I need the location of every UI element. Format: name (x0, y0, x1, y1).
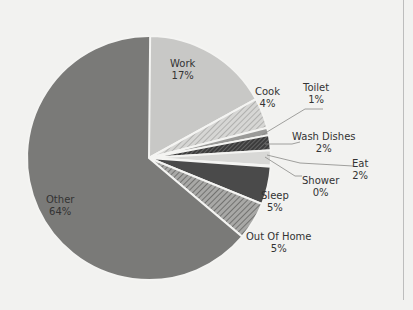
leader-eat (267, 155, 353, 166)
label-sleep-pct: 5% (261, 202, 289, 214)
label-work-name: Work (170, 58, 195, 70)
label-work-pct: 17% (170, 70, 195, 82)
label-wash-dishes: Wash Dishes 2% (292, 131, 356, 155)
label-sleep-name: Sleep (261, 190, 289, 202)
label-wash-dishes-name: Wash Dishes (292, 131, 356, 143)
label-eat: Eat 2% (352, 158, 368, 182)
label-out-of-home-pct: 5% (246, 243, 311, 255)
label-work: Work 17% (170, 58, 195, 82)
label-toilet: Toilet 1% (303, 82, 329, 106)
label-out-of-home: Out Of Home 5% (246, 231, 311, 255)
page-border-line (403, 0, 404, 300)
label-sleep: Sleep 5% (261, 190, 289, 214)
label-shower-pct: 0% (302, 187, 339, 199)
label-out-of-home-name: Out Of Home (246, 231, 311, 243)
pie-slices (27, 36, 271, 280)
pie-chart (0, 0, 413, 310)
label-shower-name: Shower (302, 175, 339, 187)
label-other-pct: 64% (46, 206, 74, 218)
label-toilet-name: Toilet (303, 82, 329, 94)
label-eat-name: Eat (352, 158, 368, 170)
label-cook-name: Cook (255, 86, 280, 98)
label-eat-pct: 2% (352, 170, 368, 182)
label-toilet-pct: 1% (303, 94, 329, 106)
label-other: Other 64% (46, 194, 74, 218)
label-cook-pct: 4% (255, 98, 280, 110)
label-cook: Cook 4% (255, 86, 280, 110)
label-other-name: Other (46, 194, 74, 206)
label-wash-dishes-pct: 2% (292, 143, 356, 155)
label-shower: Shower 0% (302, 175, 339, 199)
